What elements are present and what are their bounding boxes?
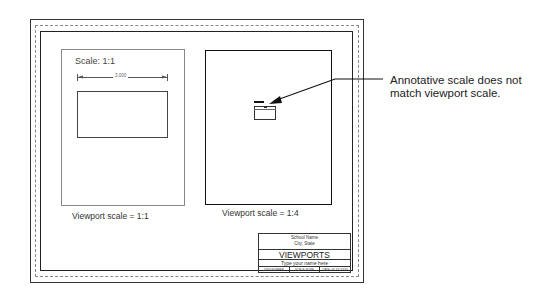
city-state: City, State <box>259 241 350 247</box>
annotation-callout-text: Annotative scale does not match viewport… <box>390 74 530 100</box>
dwg-number-cell: DWG NUMBER <box>259 267 290 273</box>
drawing-title: VIEWPORTS <box>259 250 350 260</box>
title-block-school: School Name City, State <box>259 234 350 250</box>
date-cell: DATE: XX-XX-XXXX <box>320 267 350 273</box>
title-block: School Name City, State VIEWPORTS Type y… <box>258 233 351 273</box>
scale-cell: SCALE: NONE <box>290 267 321 273</box>
student-name-field[interactable]: Type your name here <box>259 260 350 267</box>
title-block-info-cells: DWG NUMBER SCALE: NONE DATE: XX-XX-XXXX <box>259 267 350 273</box>
